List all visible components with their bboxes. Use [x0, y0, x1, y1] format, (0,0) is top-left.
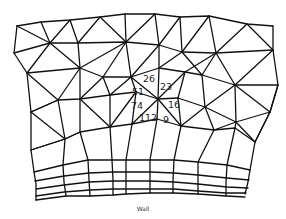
mesh-edge: [247, 24, 273, 50]
wall-caption: Wall: [137, 205, 150, 212]
mesh-layer: [31, 132, 80, 150]
mesh-row: [14, 42, 273, 53]
mesh-edge: [80, 42, 126, 68]
mesh-edge: [126, 42, 131, 77]
mesh-edge: [235, 85, 236, 122]
cell-label-26: 26: [143, 74, 155, 84]
mesh-edge: [157, 99, 158, 119]
mesh-edge: [202, 53, 216, 75]
mesh-edge: [27, 73, 58, 100]
mesh-edge: [100, 17, 126, 42]
mesh-edge: [70, 20, 78, 43]
mesh-edge: [216, 24, 247, 53]
mesh-column: [226, 128, 235, 196]
mesh-edge: [202, 75, 205, 107]
mesh-edge: [205, 85, 235, 107]
mesh-edge: [80, 77, 103, 99]
mesh-edge: [17, 26, 50, 43]
cell-label-74: 74: [131, 101, 143, 111]
cell-label-23: 23: [160, 82, 172, 92]
mesh-edge: [58, 100, 65, 139]
mesh-edge: [78, 43, 80, 68]
mesh-layer: [36, 181, 248, 189]
mesh-edge: [180, 17, 182, 52]
mesh-edge: [125, 14, 126, 42]
mesh-edge: [50, 43, 80, 68]
mesh-column: [63, 139, 66, 196]
mesh-edge: [159, 17, 180, 45]
mesh-column: [126, 124, 132, 194]
cell-label-16: 16: [168, 100, 180, 110]
mesh-column: [150, 119, 157, 193]
mesh-column: [110, 127, 113, 195]
cell-label-51: 51: [132, 87, 144, 97]
mesh-edge: [235, 85, 270, 112]
mesh-edge: [80, 99, 110, 127]
mesh-edge: [236, 122, 255, 142]
mesh-edge: [31, 112, 65, 139]
mesh-edge: [126, 14, 155, 42]
mesh-edge: [159, 52, 182, 68]
mesh-edge: [78, 17, 100, 43]
mesh-edge: [270, 85, 278, 112]
mesh-layer: [34, 160, 250, 172]
mesh-edge: [103, 42, 126, 77]
mesh-edge: [181, 107, 205, 126]
mesh-edge: [103, 77, 110, 95]
mesh-edge: [182, 16, 209, 52]
mesh-column: [80, 132, 90, 196]
mesh-edge: [31, 100, 58, 112]
mesh-edge: [158, 68, 159, 99]
mesh-edge: [41, 22, 50, 43]
cell-label-9: 9: [163, 115, 169, 125]
mesh-edge: [27, 43, 50, 73]
mesh-edge: [255, 112, 270, 142]
mesh-edge: [209, 16, 216, 53]
mesh-edge: [50, 20, 70, 43]
mesh-edge: [185, 53, 216, 72]
mesh-wall: [36, 193, 245, 200]
mesh-edge: [235, 50, 273, 85]
mesh-layer: [35, 172, 249, 181]
mesh-edge: [58, 68, 80, 100]
mesh-edge: [155, 14, 159, 45]
cell-label-112: 112: [139, 113, 157, 123]
